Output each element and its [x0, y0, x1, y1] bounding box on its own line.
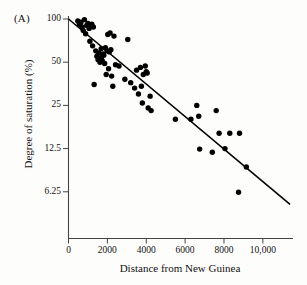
- data-points: [75, 17, 249, 195]
- figure-panel: (A) Degree of saturation (%) Distance fr…: [0, 0, 307, 285]
- y-tick-marks: [63, 19, 69, 192]
- plot-canvas: [0, 0, 307, 285]
- x-tick-marks: [69, 239, 263, 244]
- scatter-plot: Degree of saturation (%) Distance from N…: [0, 0, 307, 285]
